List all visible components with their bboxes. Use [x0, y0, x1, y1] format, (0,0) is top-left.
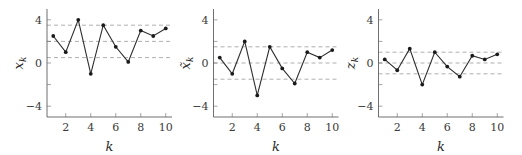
x-tick-label: 8	[469, 121, 476, 134]
chart-panel-right: 246810−404kzk	[343, 9, 505, 154]
data-point	[268, 45, 272, 49]
data-point	[101, 23, 105, 27]
y-axis-label: xk	[11, 57, 28, 70]
chart-canvas: 246810−404kxk246810−404kx̃k246810−404kzk	[0, 0, 522, 155]
x-tick-label: 6	[112, 121, 119, 134]
data-point	[139, 29, 143, 33]
data-series-line	[53, 20, 166, 74]
x-tick-label: 2	[229, 121, 236, 134]
chart-panel-middle: 246810−404kx̃k	[178, 9, 340, 154]
data-series-line	[220, 41, 333, 95]
data-point	[395, 68, 399, 72]
x-tick-label: 6	[279, 121, 286, 134]
y-axis-label: zk	[343, 57, 360, 70]
data-point	[495, 52, 499, 56]
data-point	[305, 50, 309, 54]
data-point	[89, 72, 93, 76]
y-tick-label: −4	[26, 100, 42, 113]
y-tick-label: −4	[192, 100, 208, 113]
data-point	[433, 50, 437, 54]
x-tick-label: 10	[325, 121, 339, 134]
data-point	[51, 34, 55, 38]
data-point	[151, 34, 155, 38]
data-point	[218, 56, 222, 60]
data-point	[445, 65, 449, 69]
data-point	[280, 67, 284, 71]
data-point	[458, 75, 462, 79]
x-axis-label: k	[437, 139, 445, 154]
data-point	[470, 54, 474, 58]
chart-panel-left: 246810−404kxk	[11, 9, 173, 154]
data-point	[383, 58, 387, 62]
data-point	[330, 48, 334, 52]
data-point	[114, 45, 118, 49]
x-tick-label: 8	[137, 121, 144, 134]
x-tick-label: 6	[444, 121, 451, 134]
y-axis-label: x̃k	[178, 57, 195, 70]
data-point	[76, 18, 80, 22]
data-point	[126, 60, 130, 64]
data-point	[243, 40, 247, 44]
data-point	[255, 94, 259, 98]
x-axis-label: k	[272, 139, 280, 154]
y-tick-label: 0	[35, 57, 42, 70]
y-tick-label: 4	[35, 14, 42, 27]
y-tick-label: 0	[367, 57, 374, 70]
data-point	[64, 50, 68, 54]
data-point	[318, 56, 322, 60]
data-point	[164, 27, 168, 31]
figure: 246810−404kxk246810−404kx̃k246810−404kzk	[0, 0, 522, 155]
x-tick-label: 4	[254, 121, 261, 134]
x-tick-label: 8	[304, 121, 311, 134]
x-tick-label: 4	[87, 121, 94, 134]
x-tick-label: 10	[159, 121, 173, 134]
data-series-line	[385, 49, 498, 85]
data-point	[420, 83, 424, 87]
data-point	[483, 58, 487, 62]
x-axis-label: k	[106, 139, 114, 154]
data-point	[293, 82, 297, 86]
x-tick-label: 2	[62, 121, 69, 134]
y-tick-label: 4	[367, 14, 374, 27]
y-tick-label: −4	[357, 100, 373, 113]
y-tick-label: 0	[202, 57, 209, 70]
x-tick-label: 2	[394, 121, 401, 134]
x-tick-label: 10	[490, 121, 504, 134]
x-tick-label: 4	[419, 121, 426, 134]
data-point	[230, 72, 234, 76]
y-tick-label: 4	[202, 14, 209, 27]
data-point	[408, 47, 412, 51]
